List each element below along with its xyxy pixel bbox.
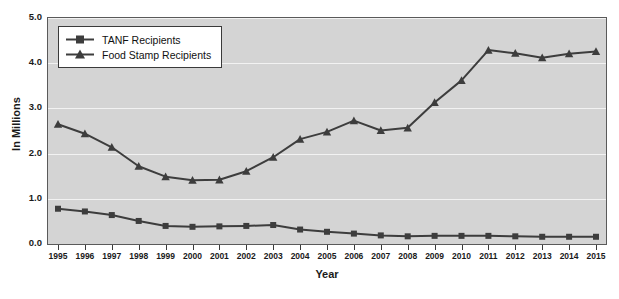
data-point-square (136, 218, 142, 224)
data-point-square (243, 223, 249, 229)
legend-label-food-stamp: Food Stamp Recipients (102, 49, 211, 61)
data-point-square (459, 233, 465, 239)
data-point-square (55, 206, 61, 212)
x-axis-tick (219, 245, 220, 250)
data-point-square (378, 232, 384, 238)
legend-item-food-stamp: Food Stamp Recipients (65, 47, 211, 62)
data-point-square (512, 233, 518, 239)
data-point-square (216, 223, 222, 229)
data-point-triangle (242, 167, 250, 175)
legend-item-tanf: TANF Recipients (65, 32, 211, 47)
x-axis-tick (58, 245, 59, 250)
legend: TANF Recipients Food Stamp Recipients (58, 26, 222, 68)
data-point-square (539, 234, 545, 240)
x-axis-tick (408, 245, 409, 250)
x-axis-tick (354, 245, 355, 250)
x-axis-tick (596, 245, 597, 250)
data-point-square (566, 234, 572, 240)
x-axis-tick (515, 245, 516, 250)
y-axis-tick-label: 3.0 (16, 101, 42, 112)
data-point-square (82, 208, 88, 214)
data-point-square (593, 234, 599, 240)
line-chart: In Millions 0.01.02.03.04.05.0 TANF Reci… (0, 0, 619, 299)
data-point-square (190, 224, 196, 230)
x-axis-tick (435, 245, 436, 250)
x-axis-tick-label: 2015 (579, 251, 613, 261)
legend-label-tanf: TANF Recipients (102, 34, 181, 46)
x-axis-tick (300, 245, 301, 250)
y-axis-tick-labels: 0.01.02.03.04.05.0 (12, 0, 42, 299)
data-point-square (485, 233, 491, 239)
x-axis-tick (462, 245, 463, 250)
x-axis-tick-labels: 1995199619971998199920002001200220032004… (47, 251, 607, 265)
x-axis-tick (139, 245, 140, 250)
data-point-square (109, 212, 115, 218)
series-line (58, 50, 596, 180)
x-axis-title: Year (47, 268, 607, 280)
y-axis-tick-label: 2.0 (16, 147, 42, 158)
x-axis-tick (327, 245, 328, 250)
legend-marker-triangle-icon (65, 48, 95, 61)
data-point-triangle (108, 143, 116, 151)
x-axis-tick (85, 245, 86, 250)
y-axis-tick-label: 1.0 (16, 192, 42, 203)
x-axis-tick (381, 245, 382, 250)
y-axis-tick-label: 4.0 (16, 56, 42, 67)
data-point-square (405, 233, 411, 239)
x-axis-tick (488, 245, 489, 250)
x-axis-tick (273, 245, 274, 250)
x-axis-tick (112, 245, 113, 250)
y-axis-tick-label: 5.0 (16, 11, 42, 22)
data-point-triangle (54, 120, 62, 128)
data-point-triangle (350, 116, 358, 124)
series-square (55, 206, 599, 240)
x-axis-tick (569, 245, 570, 250)
data-point-square (324, 229, 330, 235)
data-point-square (270, 222, 276, 228)
data-point-square (297, 227, 303, 233)
y-axis-tick-label: 0.0 (16, 237, 42, 248)
data-point-square (163, 223, 169, 229)
x-axis-tick (166, 245, 167, 250)
data-point-square (432, 233, 438, 239)
legend-marker-square-icon (65, 33, 95, 46)
x-axis-tick (542, 245, 543, 250)
x-axis-tick (246, 245, 247, 250)
data-point-square (351, 231, 357, 237)
x-axis-tick (193, 245, 194, 250)
